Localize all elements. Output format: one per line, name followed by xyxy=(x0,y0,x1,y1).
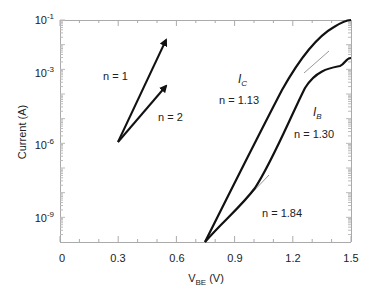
ic-ideality-label: n = 1.13 xyxy=(219,94,259,106)
n1-label: n = 1 xyxy=(103,70,128,82)
reference-arrows xyxy=(118,40,166,142)
y-tick-label: 10-3 xyxy=(35,65,55,79)
gummel-plot: 0 0.3 0.6 0.9 1.2 1.5 10-1 10-3 10-6 10-… xyxy=(0,0,372,296)
y-tick-label: 10-9 xyxy=(35,210,55,224)
x-tick-label: 0.9 xyxy=(227,252,242,264)
y-tick-label: 10-6 xyxy=(35,137,55,151)
x-tick-label: 1.2 xyxy=(285,252,300,264)
y-tick-labels: 10-1 10-3 10-6 10-9 xyxy=(35,12,55,224)
y-tick-label: 10-1 xyxy=(35,12,55,26)
x-tick-label: 0.6 xyxy=(169,252,184,264)
x-axis-label: VBE (V) xyxy=(188,272,224,287)
n1-arrow-icon xyxy=(118,40,166,142)
ib-ideality-label: n = 1.30 xyxy=(294,128,334,140)
x-tick-label: 1.5 xyxy=(343,252,358,264)
x-tick-label: 0.3 xyxy=(110,252,125,264)
ib-label: IB xyxy=(313,105,322,121)
x-tick-labels: 0 0.3 0.6 0.9 1.2 1.5 xyxy=(59,252,359,264)
y-axis-label: Current (A) xyxy=(16,105,28,159)
x-tick-label: 0 xyxy=(59,252,65,264)
n2-label: n = 2 xyxy=(158,111,183,123)
ib-low-ideality-label: n = 1.84 xyxy=(262,207,302,219)
ic-label: IC xyxy=(238,72,247,88)
